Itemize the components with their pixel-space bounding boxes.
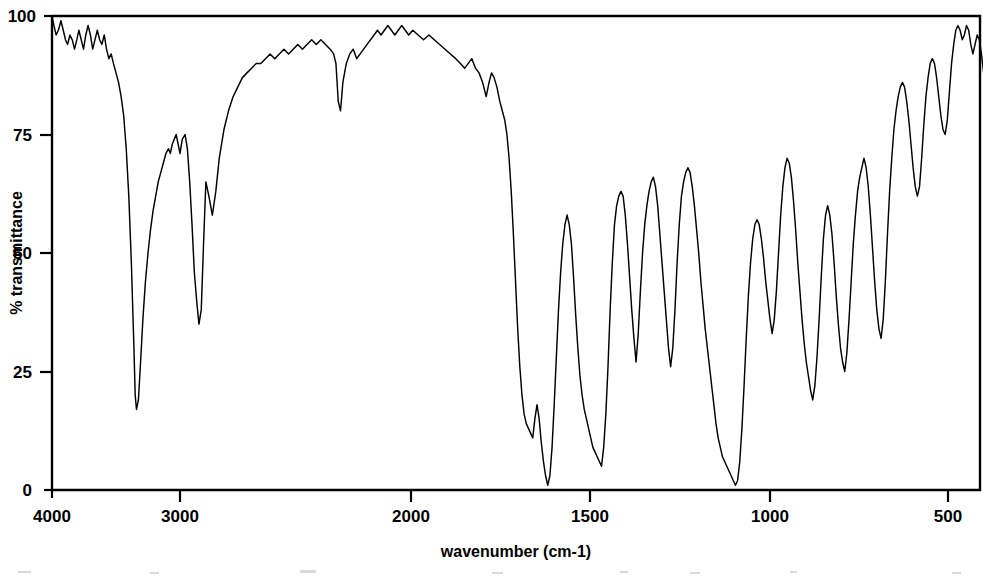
y-tick-label-0: 0 [23,481,32,500]
x-tick-label-1000: 1000 [751,507,789,526]
x-tick-label-1500: 1500 [571,507,609,526]
ir-spectrum-figure: 100 75 50 25 0 4000 3000 2000 1500 1000 … [0,0,983,581]
spectrum-canvas: 100 75 50 25 0 4000 3000 2000 1500 1000 … [0,0,983,581]
y-tick-label-25: 25 [13,363,32,382]
y-axis-title: % transmittance [8,191,25,315]
x-tick-label-2000: 2000 [392,507,430,526]
plot-frame [52,16,980,490]
spectrum-trace [52,16,983,485]
y-tick-label-100: 100 [8,7,36,26]
y-tick-label-75: 75 [13,126,32,145]
scan-artifacts [18,570,961,574]
x-axis-ticks [52,490,948,502]
x-tick-label-4000: 4000 [33,507,71,526]
x-tick-label-500: 500 [934,507,962,526]
x-tick-label-3000: 3000 [161,507,199,526]
y-axis-ticks [40,16,52,490]
x-axis-title: wavenumber (cm-1) [440,543,591,560]
